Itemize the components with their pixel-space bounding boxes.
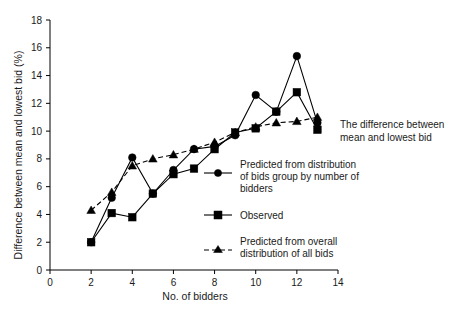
y-tick-label: 0 (36, 265, 42, 276)
legend: Predicted from distribution of bids grou… (204, 159, 359, 259)
x-tick-label: 6 (171, 277, 177, 288)
y-tick-label: 6 (36, 181, 42, 192)
square-marker-icon (214, 211, 222, 219)
circle-marker-icon (214, 169, 221, 176)
legend-label-triangle-line2: distribution of all bids (240, 248, 333, 259)
square-data-point (190, 165, 198, 173)
square-data-point (211, 145, 219, 153)
legend-entry-triangle[interactable]: Predicted from overall distribution of a… (204, 236, 337, 259)
x-tick-label: 8 (212, 277, 218, 288)
legend-label-square-line1: Observed (240, 210, 283, 221)
x-tick-label: 2 (88, 277, 94, 288)
chart-figure: 024681012141618 02468101214 Difference b… (0, 0, 451, 318)
triangle-marker-icon (214, 246, 223, 253)
x-axis-ticks: 02468101214 (47, 270, 344, 288)
data-series-layer (87, 52, 322, 246)
legend-entry-square[interactable]: Observed (204, 210, 283, 221)
square-data-point (87, 238, 95, 246)
triangle-data-point (272, 118, 281, 126)
square-data-point (108, 209, 116, 217)
x-tick-label: 4 (130, 277, 136, 288)
legend-label-circle-line3: bidders (240, 183, 273, 194)
square-data-point (128, 213, 136, 221)
x-tick-label: 0 (47, 277, 53, 288)
legend-label-circle-line2: of bids group by number of (240, 171, 359, 182)
legend-label-circle-line1: Predicted from distribution (240, 159, 356, 170)
y-tick-label: 18 (31, 15, 43, 26)
y-axis-ticks: 024681012141618 (31, 15, 50, 276)
y-tick-label: 16 (31, 42, 43, 53)
y-tick-label: 10 (31, 126, 43, 137)
annotation-line-2: mean and lowest bid (340, 132, 432, 143)
y-tick-label: 4 (36, 209, 42, 220)
square-data-point (272, 108, 280, 116)
annotation-line-1: The difference between (340, 119, 444, 130)
circle-data-point (252, 91, 260, 99)
chart-canvas: 024681012141618 02468101214 Difference b… (0, 0, 451, 318)
y-tick-label: 8 (36, 153, 42, 164)
x-tick-label: 14 (332, 277, 344, 288)
triangle-data-point (149, 155, 158, 163)
x-tick-label: 12 (291, 277, 303, 288)
circle-data-point (293, 52, 301, 60)
y-tick-label: 2 (36, 237, 42, 248)
circle-data-point (128, 154, 136, 162)
y-tick-label: 14 (31, 70, 43, 81)
legend-entry-circle[interactable]: Predicted from distribution of bids grou… (204, 159, 359, 194)
series-circle (87, 52, 321, 246)
legend-label-triangle-line1: Predicted from overall (240, 236, 337, 247)
x-tick-label: 10 (250, 277, 262, 288)
square-data-point (314, 126, 322, 134)
y-axis-title: Difference between mean and lowest bid (… (12, 51, 24, 260)
square-data-point (149, 190, 157, 198)
y-tick-label: 12 (31, 98, 43, 109)
triangle-data-point (210, 138, 219, 146)
series-line (91, 56, 317, 242)
square-data-point (170, 170, 178, 178)
x-axis-title: No. of bidders (162, 290, 227, 302)
square-data-point (293, 88, 301, 96)
